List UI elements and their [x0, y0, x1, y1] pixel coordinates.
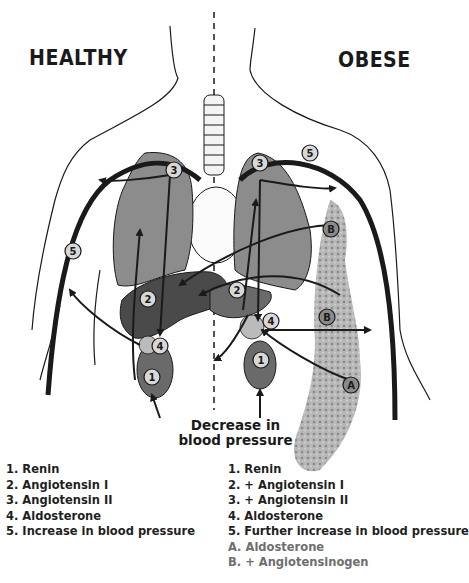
legend-healthy: 1. Renin 2. Angiotensin I 3. Angiotensin… — [6, 462, 195, 540]
legend-item: 5. Further increase in blood pressure — [228, 523, 469, 540]
svg-text:1: 1 — [149, 372, 156, 383]
svg-text:B: B — [323, 312, 331, 323]
marker-obese-4: 4 — [263, 313, 279, 329]
svg-text:1: 1 — [258, 355, 265, 366]
legend-item: 3. + Angiotensin II — [228, 492, 469, 509]
svg-text:B: B — [327, 224, 335, 235]
legend-obese: 1. Renin 2. + Angiotensin I 3. + Angiote… — [228, 462, 469, 571]
svg-text:5: 5 — [307, 148, 314, 159]
legend-item: 2. Angiotensin I — [6, 477, 195, 494]
marker-obese-2: 2 — [229, 282, 245, 298]
svg-text:2: 2 — [145, 294, 152, 305]
marker-healthy-3: 3 — [166, 162, 182, 178]
marker-obese-3: 3 — [252, 155, 268, 171]
marker-obese-B-upper: B — [323, 221, 339, 237]
legend-item-fat: A. Aldosterone — [228, 539, 469, 556]
legend-item-fat: B. + Angiotensinogen — [228, 554, 469, 571]
svg-text:5: 5 — [70, 246, 77, 257]
marker-obese-A: A — [343, 377, 359, 393]
legend-item: 1. Renin — [228, 461, 469, 478]
marker-obese-5: 5 — [302, 145, 318, 161]
marker-obese-1: 1 — [253, 352, 269, 368]
caption-line-1: Decrease in — [163, 417, 308, 432]
svg-text:4: 4 — [268, 316, 275, 327]
svg-text:2: 2 — [234, 285, 241, 296]
legend-item: 3. Angiotensin II — [6, 492, 195, 509]
caption-line-2: blood pressure — [163, 432, 308, 447]
legend-item: 4. Aldosterone — [228, 508, 469, 525]
decrease-bp-caption: Decrease in blood pressure — [163, 417, 308, 448]
marker-healthy-4: 4 — [152, 338, 168, 354]
svg-text:3: 3 — [257, 158, 264, 169]
svg-text:3: 3 — [171, 165, 178, 176]
adrenal-obese — [240, 315, 264, 339]
marker-healthy-5: 5 — [65, 243, 81, 259]
legend-item: 1. Renin — [6, 461, 195, 478]
legend-item: 5. Increase in blood pressure — [6, 523, 195, 540]
marker-healthy-1: 1 — [144, 369, 160, 385]
svg-text:A: A — [347, 380, 355, 391]
svg-text:4: 4 — [157, 341, 164, 352]
legend-item: 2. + Angiotensin I — [228, 477, 469, 494]
marker-healthy-2: 2 — [140, 291, 156, 307]
marker-obese-B-lower: B — [319, 309, 335, 325]
legend-item: 4. Aldosterone — [6, 508, 195, 525]
trachea-icon — [204, 95, 224, 175]
